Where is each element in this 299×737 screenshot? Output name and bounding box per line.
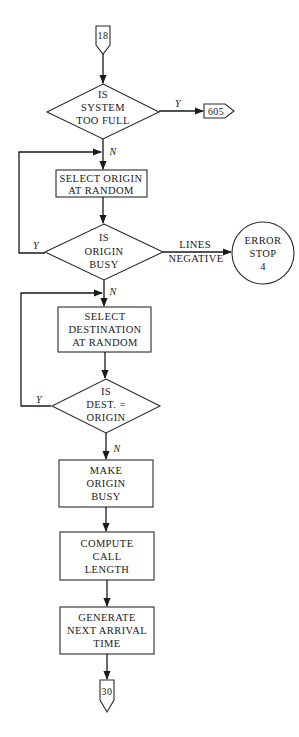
decision-text-line: ORIGIN xyxy=(86,412,125,423)
decision-text-line: ORIGIN xyxy=(84,246,123,257)
flowchart-canvas: 18 IS SYSTEM TOO FULL Y 605 N SELECT ORI… xyxy=(0,0,299,737)
entry-connector-label: 18 xyxy=(98,30,109,41)
side-connector-605: 605 xyxy=(204,104,234,118)
process-make-origin-busy: MAKE ORIGIN BUSY xyxy=(59,460,153,507)
decision-origin-busy: IS ORIGIN BUSY xyxy=(45,224,163,280)
process-select-origin: SELECT ORIGIN AT RANDOM xyxy=(56,170,147,197)
edge-label-yes: Y xyxy=(175,98,182,109)
process-compute-call-length: COMPUTE CALL LENGTH xyxy=(60,532,154,580)
process-text-line: DESTINATION xyxy=(68,324,141,335)
process-text-line: COMPUTE xyxy=(81,538,134,549)
terminal-text-line: 4 xyxy=(260,261,266,272)
edge-label-lines-negative-1: LINES xyxy=(179,239,211,250)
decision-text-line: TOO FULL xyxy=(76,115,129,126)
process-text-line: TIME xyxy=(93,638,120,649)
edge-label-lines-negative-2: NEGATIVE xyxy=(168,253,223,264)
edge-label-no: N xyxy=(108,286,117,297)
decision-text-line: IS xyxy=(98,89,108,100)
exit-connector-label: 30 xyxy=(102,686,113,697)
process-select-destination: SELECT DESTINATION AT RANDOM xyxy=(58,307,151,352)
process-text-line: SELECT xyxy=(85,311,126,322)
edge-label-no: N xyxy=(112,443,121,454)
process-text-line: LENGTH xyxy=(85,564,129,575)
process-text-line: AT RANDOM xyxy=(72,337,138,348)
entry-connector-18: 18 xyxy=(96,26,110,54)
terminal-text-line: STOP xyxy=(249,248,276,259)
edge-label-yes: Y xyxy=(33,240,40,251)
decision-text-line: BUSY xyxy=(89,259,119,270)
decision-text-line: IS xyxy=(101,386,111,397)
process-text-line: AT RANDOM xyxy=(68,185,134,196)
edge-label-yes: Y xyxy=(36,394,43,405)
side-connector-label: 605 xyxy=(208,106,224,117)
decision-text-line: DEST. = xyxy=(86,399,125,410)
process-text-line: GENERATE xyxy=(78,612,135,623)
terminal-text-line: ERROR xyxy=(244,235,281,246)
edge-label-no: N xyxy=(108,146,117,157)
decision-dest-equals-origin: IS DEST. = ORIGIN xyxy=(52,379,160,433)
decision-system-too-full: IS SYSTEM TOO FULL xyxy=(47,84,159,139)
process-text-line: ORIGIN xyxy=(86,478,125,489)
process-text-line: SELECT ORIGIN xyxy=(60,173,143,184)
process-text-line: BUSY xyxy=(91,491,121,502)
decision-text-line: IS xyxy=(99,232,109,243)
process-text-line: CALL xyxy=(92,551,121,562)
exit-connector-30: 30 xyxy=(100,680,114,712)
decision-text-line: SYSTEM xyxy=(81,102,125,113)
terminal-error-stop: ERROR STOP 4 xyxy=(232,222,294,284)
process-text-line: NEXT ARRIVAL xyxy=(67,625,147,636)
process-generate-next-arrival: GENERATE NEXT ARRIVAL TIME xyxy=(60,607,154,654)
process-text-line: MAKE xyxy=(90,465,123,476)
